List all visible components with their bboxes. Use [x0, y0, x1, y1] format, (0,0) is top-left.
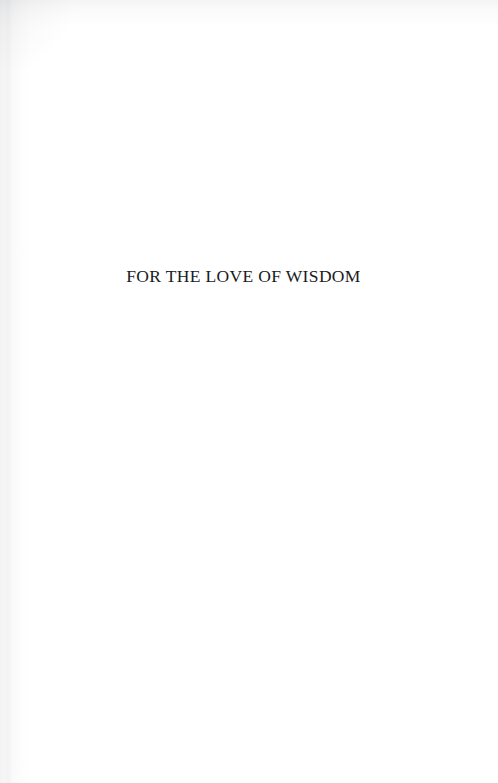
page-title: FOR THE LOVE OF WISDOM: [0, 266, 487, 286]
scan-shading-top: [0, 0, 498, 26]
scan-shading-left: [0, 0, 30, 783]
scan-banding-left: [4, 0, 13, 783]
scan-shading-corner: [0, 0, 74, 74]
scanned-page: FOR THE LOVE OF WISDOM: [0, 0, 498, 783]
